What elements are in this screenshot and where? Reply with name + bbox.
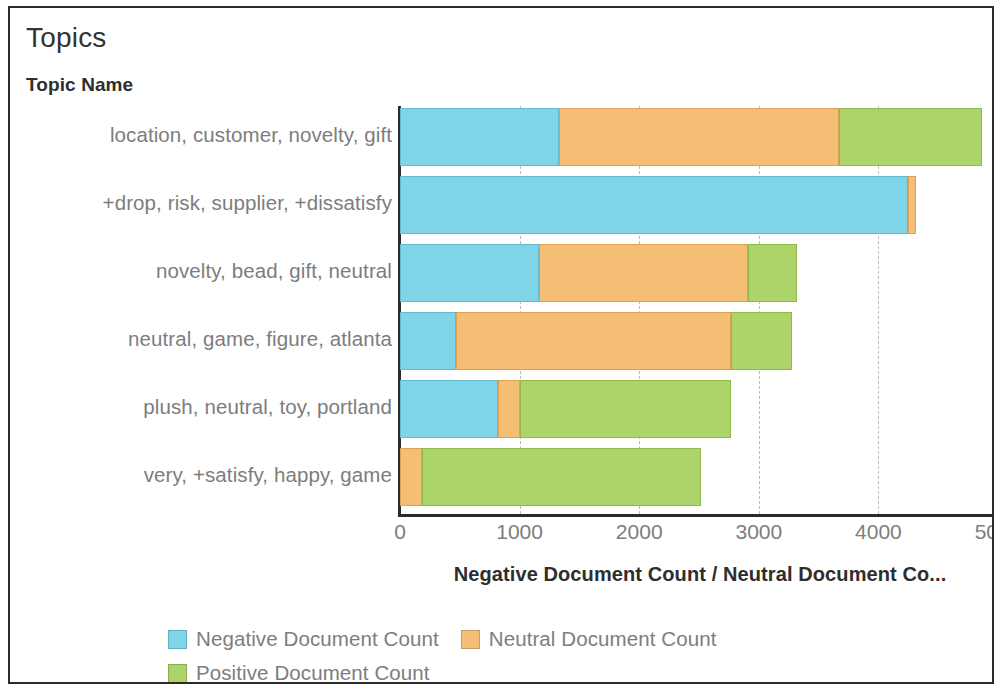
x-tick-label: 3000 (735, 520, 782, 544)
bar-row[interactable] (400, 380, 994, 438)
topics-chart-card: Topics Topic Name location, customer, no… (8, 6, 994, 684)
legend-swatch-icon (168, 664, 187, 683)
category-label: very, +satisfy, happy, game (20, 463, 392, 487)
legend-label: Negative Document Count (196, 627, 439, 651)
category-label: plush, neutral, toy, portland (20, 395, 392, 419)
category-axis-labels: location, customer, novelty, gift+drop, … (20, 106, 392, 516)
x-axis-tick-labels: 010002000300040005000 (400, 520, 994, 550)
legend-swatch-icon (168, 630, 187, 649)
bar-segment-neutral[interactable] (400, 448, 422, 506)
column-header-topic-name: Topic Name (26, 74, 133, 96)
bar-row[interactable] (400, 244, 994, 302)
legend-item[interactable]: Neutral Document Count (461, 627, 717, 651)
page-title: Topics (26, 22, 107, 54)
legend-row: Positive Document Count (168, 656, 928, 684)
legend-label: Positive Document Count (196, 661, 430, 684)
x-tick-label: 0 (394, 520, 406, 544)
bar-segment-negative[interactable] (400, 380, 498, 438)
legend-swatch-icon (461, 630, 480, 649)
bar-row[interactable] (400, 312, 994, 370)
bar-segment-positive[interactable] (520, 380, 732, 438)
bar-row[interactable] (400, 108, 994, 166)
bar-segment-neutral[interactable] (559, 108, 839, 166)
bar-segment-positive[interactable] (748, 244, 797, 302)
bar-segment-positive[interactable] (839, 108, 983, 166)
bar-segment-negative[interactable] (400, 176, 908, 234)
category-label: +drop, risk, supplier, +dissatisfy (20, 191, 392, 215)
bar-segment-neutral[interactable] (908, 176, 915, 234)
x-axis-line (398, 514, 994, 517)
x-tick-label: 2000 (616, 520, 663, 544)
bar-segment-neutral[interactable] (498, 380, 520, 438)
plot-area (400, 106, 994, 516)
legend-label: Neutral Document Count (489, 627, 717, 651)
x-tick-label: 5000 (975, 520, 994, 544)
bar-segment-neutral[interactable] (456, 312, 731, 370)
category-label: location, customer, novelty, gift (20, 123, 392, 147)
category-label: neutral, game, figure, atlanta (20, 327, 392, 351)
x-tick-label: 1000 (496, 520, 543, 544)
legend-row: Negative Document CountNeutral Document … (168, 622, 928, 656)
category-label: novelty, bead, gift, neutral (20, 259, 392, 283)
bar-segment-positive[interactable] (422, 448, 702, 506)
bar-segment-neutral[interactable] (539, 244, 748, 302)
bar-row[interactable] (400, 448, 994, 506)
x-tick-label: 4000 (855, 520, 902, 544)
bar-segment-positive[interactable] (731, 312, 792, 370)
legend-item[interactable]: Negative Document Count (168, 627, 439, 651)
legend-item[interactable]: Positive Document Count (168, 661, 430, 684)
x-axis-title: Negative Document Count / Neutral Docume… (400, 563, 994, 586)
bar-row[interactable] (400, 176, 994, 234)
bar-segment-negative[interactable] (400, 108, 559, 166)
chart-legend: Negative Document CountNeutral Document … (168, 622, 928, 684)
bar-segment-negative[interactable] (400, 244, 539, 302)
bar-segment-negative[interactable] (400, 312, 456, 370)
